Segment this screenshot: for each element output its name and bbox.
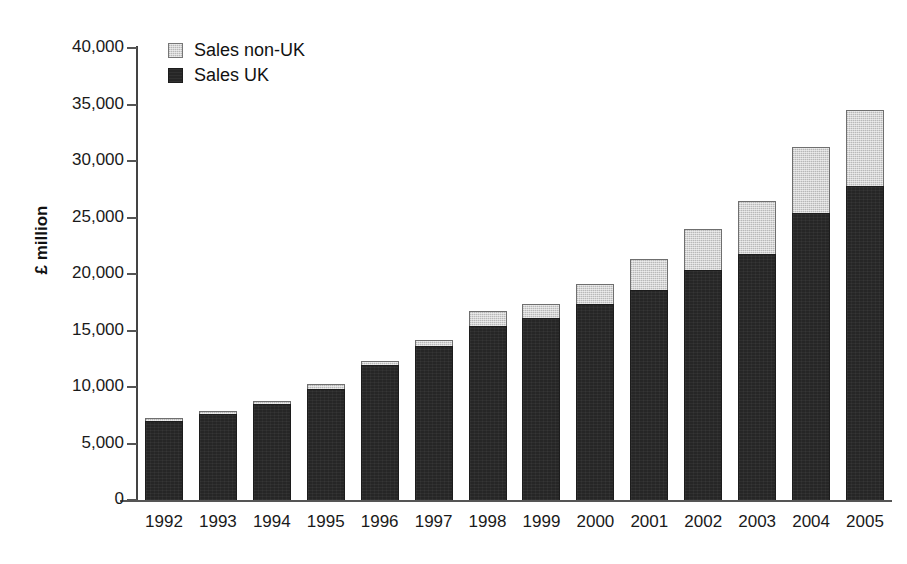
bar-group[interactable] xyxy=(684,229,722,500)
bar-segment-sales-uk[interactable] xyxy=(738,254,776,500)
bar-segment-sales-non-uk[interactable] xyxy=(630,259,668,290)
chart-legend: Sales non-UK Sales UK xyxy=(168,38,305,88)
bar-segment-sales-uk[interactable] xyxy=(846,186,884,500)
y-tick-label: 10,000 xyxy=(24,376,124,396)
x-tick-label: 1995 xyxy=(296,512,356,532)
y-tick-mark xyxy=(127,330,137,332)
x-tick-label: 1998 xyxy=(458,512,518,532)
bar-group[interactable] xyxy=(253,401,291,500)
bar-segment-sales-non-uk[interactable] xyxy=(792,147,830,213)
y-tick-mark xyxy=(127,499,137,501)
y-tick-label: 0 xyxy=(24,489,124,509)
legend-swatch-icon-uk xyxy=(168,68,183,83)
bar-segment-sales-uk[interactable] xyxy=(469,326,507,500)
bar-group[interactable] xyxy=(361,361,399,500)
bar-segment-sales-uk[interactable] xyxy=(361,365,399,500)
y-tick-mark xyxy=(127,443,137,445)
bar-group[interactable] xyxy=(630,259,668,500)
bar-group[interactable] xyxy=(792,147,830,500)
bar-segment-sales-non-uk[interactable] xyxy=(469,311,507,326)
bar-segment-sales-uk[interactable] xyxy=(522,318,560,500)
x-tick-label: 2005 xyxy=(835,512,895,532)
bar-segment-sales-uk[interactable] xyxy=(307,389,345,500)
x-tick-label: 2004 xyxy=(781,512,841,532)
y-tick-label: 25,000 xyxy=(24,207,124,227)
bar-group[interactable] xyxy=(846,110,884,500)
y-tick-mark xyxy=(127,160,137,162)
x-axis-line xyxy=(120,500,892,502)
legend-label-non-uk: Sales non-UK xyxy=(194,40,305,61)
bar-segment-sales-uk[interactable] xyxy=(792,213,830,500)
x-tick-label: 2003 xyxy=(727,512,787,532)
stacked-bar-chart: £ million 40,00035,00030,00025,00020,000… xyxy=(0,0,907,564)
y-tick-label: 5,000 xyxy=(24,433,124,453)
bar-group[interactable] xyxy=(738,201,776,500)
y-tick-label: 40,000 xyxy=(24,37,124,57)
y-tick-mark xyxy=(127,104,137,106)
y-tick-mark xyxy=(127,386,137,388)
legend-item-sales-uk[interactable]: Sales UK xyxy=(168,63,305,88)
bar-segment-sales-uk[interactable] xyxy=(684,270,722,500)
x-tick-label: 1993 xyxy=(188,512,248,532)
bar-group[interactable] xyxy=(307,384,345,500)
bar-segment-sales-uk[interactable] xyxy=(253,404,291,500)
bar-group[interactable] xyxy=(469,311,507,500)
legend-label-uk: Sales UK xyxy=(194,65,269,86)
y-tick-mark xyxy=(127,273,137,275)
bar-segment-sales-uk[interactable] xyxy=(630,290,668,500)
x-tick-label: 2002 xyxy=(673,512,733,532)
y-tick-label: 15,000 xyxy=(24,320,124,340)
bar-group[interactable] xyxy=(145,418,183,500)
bar-segment-sales-uk[interactable] xyxy=(145,421,183,500)
legend-swatch-icon-non-uk xyxy=(168,43,183,58)
y-tick-label: 20,000 xyxy=(24,263,124,283)
x-tick-label: 1999 xyxy=(511,512,571,532)
x-tick-label: 1996 xyxy=(350,512,410,532)
x-tick-label: 1992 xyxy=(134,512,194,532)
x-tick-label: 1994 xyxy=(242,512,302,532)
legend-item-sales-non-uk[interactable]: Sales non-UK xyxy=(168,38,305,63)
y-tick-label: 30,000 xyxy=(24,150,124,170)
bar-segment-sales-uk[interactable] xyxy=(199,414,237,500)
x-tick-label: 2001 xyxy=(619,512,679,532)
x-tick-label: 1997 xyxy=(404,512,464,532)
y-tick-mark xyxy=(127,217,137,219)
bar-group[interactable] xyxy=(576,284,614,500)
y-tick-label: 35,000 xyxy=(24,94,124,114)
x-tick-label: 2000 xyxy=(565,512,625,532)
y-tick-mark xyxy=(127,47,137,49)
bar-segment-sales-non-uk[interactable] xyxy=(846,110,884,186)
bar-segment-sales-non-uk[interactable] xyxy=(684,229,722,270)
bar-group[interactable] xyxy=(199,411,237,500)
bar-segment-sales-uk[interactable] xyxy=(576,304,614,500)
bar-segment-sales-non-uk[interactable] xyxy=(576,284,614,304)
bar-group[interactable] xyxy=(415,340,453,500)
bar-group[interactable] xyxy=(522,304,560,500)
bar-segment-sales-non-uk[interactable] xyxy=(738,201,776,254)
plot-area xyxy=(137,48,892,500)
bar-segment-sales-uk[interactable] xyxy=(415,346,453,500)
bar-segment-sales-non-uk[interactable] xyxy=(522,304,560,318)
